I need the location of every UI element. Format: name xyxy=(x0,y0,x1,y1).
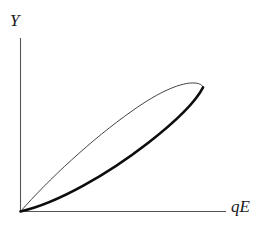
hysteresis-loop-figure: Y qE xyxy=(0,0,263,229)
upper-branch-curve xyxy=(21,83,204,212)
lower-branch-curve xyxy=(21,88,204,212)
x-axis-label: qE xyxy=(231,198,250,215)
plot-canvas xyxy=(0,0,263,229)
y-axis-label: Y xyxy=(10,12,19,29)
